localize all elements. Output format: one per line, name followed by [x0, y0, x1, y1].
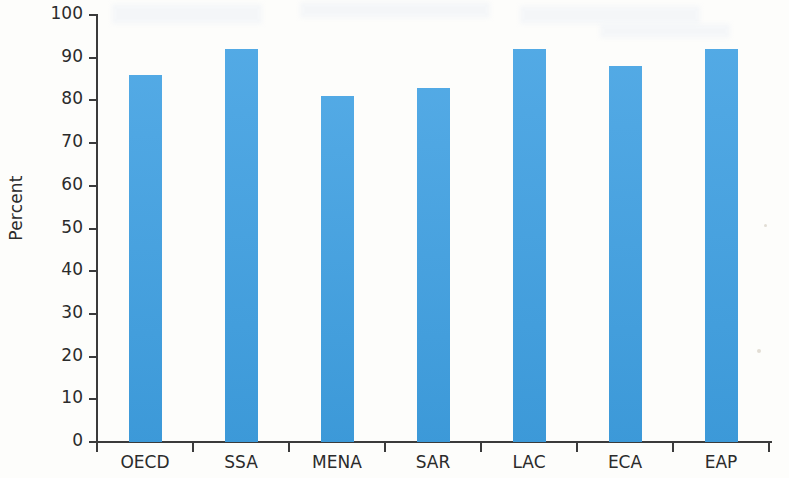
x-axis-category-label: SSA	[193, 452, 289, 472]
chart-figure: Percent 0102030405060708090100OECDSSAMEN…	[0, 0, 789, 478]
x-axis-category-label: SAR	[385, 452, 481, 472]
y-axis-tick-label: 50	[61, 217, 83, 237]
bar	[513, 49, 546, 442]
x-axis-tick-mark	[192, 443, 194, 452]
y-axis-tick-mark	[89, 270, 97, 272]
y-axis-tick-mark	[89, 14, 97, 16]
x-axis-tick-mark	[480, 443, 482, 452]
x-axis-tick-mark	[768, 443, 770, 452]
y-axis-tick-label: 90	[61, 46, 83, 66]
x-axis-category-label: LAC	[481, 452, 577, 472]
x-axis-tick-mark	[96, 443, 98, 452]
y-axis-tick-mark	[89, 398, 97, 400]
x-axis-category-label: OECD	[97, 452, 193, 472]
bar	[129, 75, 162, 442]
x-axis-category-label: EAP	[673, 452, 769, 472]
y-axis-tick-label: 40	[61, 259, 83, 279]
bar	[321, 96, 354, 442]
y-axis-tick-mark	[89, 313, 97, 315]
x-axis-category-label: MENA	[289, 452, 385, 472]
y-axis-tick-label: 80	[61, 88, 83, 108]
plot-area	[97, 15, 769, 442]
y-axis-tick-label: 20	[61, 345, 83, 365]
bar	[705, 49, 738, 442]
y-axis-tick-mark	[89, 185, 97, 187]
x-axis-tick-mark	[576, 443, 578, 452]
y-axis-tick-mark	[89, 228, 97, 230]
y-axis-tick-mark	[89, 356, 97, 358]
y-axis-tick-label: 30	[61, 302, 83, 322]
x-axis-tick-mark	[288, 443, 290, 452]
bar	[225, 49, 258, 442]
y-axis-tick-label: 70	[61, 131, 83, 151]
y-axis-tick-mark	[89, 142, 97, 144]
x-axis-tick-mark	[672, 443, 674, 452]
x-axis-category-label: ECA	[577, 452, 673, 472]
x-axis-tick-mark	[384, 443, 386, 452]
y-axis-title: Percent	[6, 160, 26, 256]
bar	[417, 88, 450, 442]
y-axis-tick-label: 60	[61, 174, 83, 194]
y-axis-tick-label: 100	[51, 3, 83, 23]
y-axis-tick-label: 10	[61, 387, 83, 407]
y-axis-tick-mark	[89, 99, 97, 101]
bar	[609, 66, 642, 442]
y-axis-tick-label: 0	[72, 430, 83, 450]
y-axis-tick-mark	[89, 57, 97, 59]
